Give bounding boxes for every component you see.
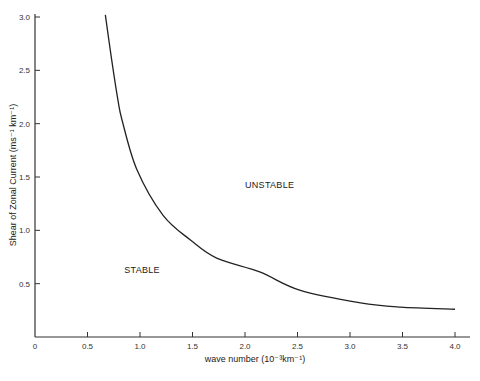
y-tick-label: 1.5 — [19, 173, 31, 182]
x-axis-label: wave number (10⁻³km⁻¹) — [204, 354, 306, 364]
y-tick-label: 0.5 — [19, 280, 31, 289]
x-tick-label: 2.0 — [239, 342, 251, 351]
x-tick-label: 1.0 — [134, 342, 146, 351]
x-tick-label: 2.5 — [292, 342, 304, 351]
y-tick-label: 2.0 — [19, 120, 31, 129]
ticks: 00.51.01.52.02.53.03.54.00.51.01.52.02.5… — [19, 13, 461, 351]
x-tick-label: 3.5 — [397, 342, 409, 351]
y-tick-label: 1.0 — [19, 226, 31, 235]
y-tick-label: 2.5 — [19, 66, 31, 75]
x-tick-label: 0 — [33, 342, 38, 351]
x-tick-label: 0.5 — [82, 342, 94, 351]
x-tick-label: 1.5 — [187, 342, 199, 351]
axes — [35, 14, 470, 337]
region-label-unstable: UNSTABLE — [245, 180, 294, 190]
y-tick-label: 3.0 — [19, 13, 31, 22]
x-tick-label: 3.0 — [344, 342, 356, 351]
region-label-stable: STABLE — [124, 265, 160, 275]
x-tick-label: 4.0 — [449, 342, 461, 351]
y-axis-label: Shear of Zonal Current (ms⁻¹ km⁻¹) — [8, 104, 18, 247]
region-labels: UNSTABLESTABLE — [124, 180, 294, 275]
stability-chart: 00.51.01.52.02.53.03.54.00.51.01.52.02.5… — [0, 0, 480, 381]
